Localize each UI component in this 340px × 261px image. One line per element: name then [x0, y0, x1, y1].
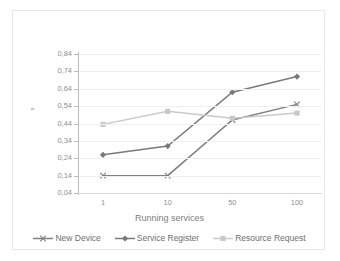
y-axis-tick-mark: [74, 124, 78, 125]
y-axis-tick-label: 0,34: [57, 137, 72, 145]
y-axis-tick-label: 0,14: [57, 172, 72, 180]
y-axis-tick-mark: [74, 193, 78, 194]
data-point-square: [221, 235, 226, 240]
y-axis-tick-mark: [74, 158, 78, 159]
y-axis-tick-mark: [74, 71, 78, 72]
legend-marker-icon: [115, 234, 135, 243]
chart-container: s 0,840,740,640,540,440,340,240,140,04 1…: [12, 10, 325, 250]
x-axis-tick-labels: 11050100: [79, 199, 321, 211]
y-axis-tick-label: 0,44: [57, 120, 72, 128]
plot-wrapper: s 0,840,740,640,540,440,340,240,140,04 1…: [13, 11, 326, 196]
legend-marker-icon: [33, 234, 53, 243]
x-axis-tick-label: 100: [291, 199, 304, 207]
series-line: [103, 111, 297, 124]
y-axis-tick-label: 0,04: [57, 189, 72, 197]
y-axis-tick-mark: [74, 176, 78, 177]
y-axis-tick-labels: 0,840,740,640,540,440,340,240,140,04: [38, 44, 72, 197]
x-axis-line: [78, 193, 322, 194]
x-axis-tick-label: 10: [163, 199, 171, 207]
x-axis-tick-label: 50: [228, 199, 236, 207]
y-axis-tick-label: 0,84: [57, 50, 72, 58]
gridline: [79, 176, 321, 177]
x-axis-title: Running services: [13, 213, 326, 223]
data-point-square: [294, 110, 299, 115]
x-axis-tick-label: 1: [101, 199, 105, 207]
chart-legend: New DeviceService RegisterResource Reque…: [13, 233, 326, 243]
data-point-square: [230, 116, 235, 121]
legend-item[interactable]: Service Register: [115, 233, 199, 243]
gridline: [79, 124, 321, 125]
y-axis-tick-label: 0,54: [57, 102, 72, 110]
gridline: [79, 106, 321, 107]
gridline: [79, 89, 321, 90]
legend-item[interactable]: New Device: [33, 233, 100, 243]
y-axis-tick-label: 0,64: [57, 85, 72, 93]
y-axis-tick-mark: [74, 54, 78, 55]
gridline: [79, 158, 321, 159]
legend-label: Resource Request: [235, 233, 305, 243]
y-axis-tick-mark: [74, 89, 78, 90]
plot-area: [79, 54, 321, 193]
legend-label: New Device: [55, 233, 100, 243]
gridline: [79, 54, 321, 55]
y-axis-tick-label: 0,74: [57, 67, 72, 75]
y-axis-tick-label: 0,24: [57, 154, 72, 162]
data-point-diamond: [122, 235, 128, 241]
data-point-diamond: [100, 152, 106, 158]
gridline: [79, 141, 321, 142]
y-axis-tick-mark: [74, 141, 78, 142]
data-point-diamond: [294, 73, 300, 79]
legend-label: Service Register: [137, 233, 199, 243]
gridline: [79, 71, 321, 72]
data-point-square: [165, 109, 170, 114]
legend-item[interactable]: Resource Request: [213, 233, 305, 243]
y-axis-title: s: [29, 107, 35, 110]
legend-marker-icon: [213, 234, 233, 243]
y-axis-tick-mark: [74, 106, 78, 107]
